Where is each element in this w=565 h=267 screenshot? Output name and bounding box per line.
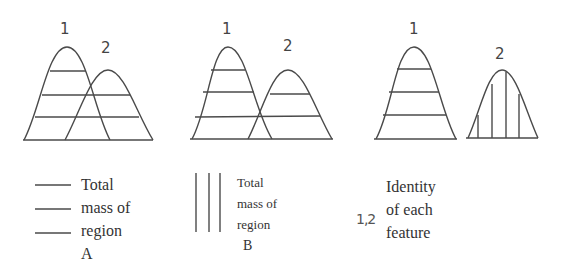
panel-3-peak-1-label: 1: [409, 22, 419, 37]
legend-a-line-3: region: [81, 219, 130, 242]
panel-3-peak-2-label: 2: [495, 47, 505, 62]
legend-b-symbol-vertical-lines: [196, 173, 220, 232]
legend-b-line-3: region: [237, 214, 277, 235]
panel-2-peak-1-label: 1: [222, 22, 232, 37]
panel-1-overlapping-peaks: [23, 47, 153, 140]
peak-2-curve: [65, 70, 153, 140]
legend-a-line-1: Total: [81, 173, 130, 196]
legend-b-text: Total mass of region: [237, 172, 277, 235]
legend-c-text: Identity of each feature: [386, 175, 436, 244]
peak-1-curve: [376, 47, 456, 139]
panel-2-peak-2-label: 2: [283, 39, 293, 54]
legend-c-line-2: of each: [386, 198, 436, 221]
legend-c-line-3: feature: [386, 221, 436, 244]
panel-3-separated-peaks: [374, 47, 538, 139]
legend-b-line-1: Total: [237, 172, 277, 193]
peak-2-curve: [248, 70, 332, 139]
peak-1-curve: [24, 47, 110, 140]
legend-a-text: Total mass of region A: [81, 173, 130, 265]
legend-c-symbol-feature-numbers: 1,2: [356, 211, 375, 227]
legend-a-tag: A: [81, 242, 130, 265]
legend-a-symbol-horizontal-lines: [35, 185, 71, 233]
panel-1-peak-2-label: 2: [101, 41, 111, 56]
panel-1-peak-1-label: 1: [60, 22, 70, 37]
horizontal-hatch: [195, 116, 320, 117]
peak-1-curve: [192, 47, 272, 139]
legend-a-line-2: mass of: [81, 196, 130, 219]
legend-c-line-1: Identity: [386, 175, 436, 198]
legend-b-line-2: mass of: [237, 193, 277, 214]
legend-b-tag: B: [243, 238, 252, 254]
panel-2-touching-peaks: [190, 47, 333, 139]
